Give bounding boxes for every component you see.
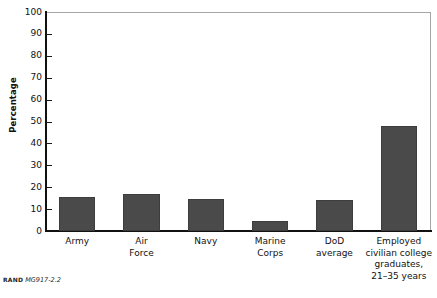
- bar: [381, 126, 417, 231]
- y-tick-mark: [46, 187, 52, 188]
- bar: [252, 221, 288, 231]
- y-tick-mark: [46, 34, 52, 35]
- bar: [188, 199, 224, 231]
- bar: [316, 200, 352, 231]
- bar: [59, 197, 95, 231]
- bar-series: [45, 12, 431, 231]
- y-tick-label: 0: [2, 227, 42, 236]
- x-tick-label-line: 21–35 years: [359, 271, 437, 283]
- figure-container: Percentage 0102030405060708090100 ArmyAi…: [0, 0, 437, 298]
- rand-wordmark: RAND: [3, 276, 23, 283]
- y-tick-label: 20: [2, 183, 42, 192]
- y-tick-mark: [46, 100, 52, 101]
- y-tick-label: 100: [2, 8, 42, 17]
- y-tick-label: 80: [2, 51, 42, 60]
- y-tick-label: 10: [2, 205, 42, 214]
- x-tick-label-line: Employed: [359, 236, 437, 248]
- y-tick-label: 50: [2, 117, 42, 126]
- y-axis-ticks: 0102030405060708090100: [0, 0, 42, 240]
- y-tick-label: 40: [2, 139, 42, 148]
- y-tick-label: 70: [2, 73, 42, 82]
- x-tick-label-line: Force: [101, 248, 181, 260]
- x-tick-label: Employedcivilian collegegraduates,21–35 …: [359, 236, 437, 282]
- y-tick-mark: [46, 165, 52, 166]
- y-tick-label: 90: [2, 29, 42, 38]
- figure-number: MG917-2.2: [25, 276, 61, 284]
- x-tick-label-line: civilian college: [359, 248, 437, 260]
- x-tick-label-line: graduates,: [359, 259, 437, 271]
- y-tick-mark: [46, 209, 52, 210]
- y-tick-mark: [46, 122, 52, 123]
- x-axis-ticks: ArmyAirForceNavyMarineCorpsDoDaverageEmp…: [45, 236, 435, 298]
- y-tick-mark: [46, 143, 52, 144]
- y-tick-label: 60: [2, 95, 42, 104]
- y-tick-label: 30: [2, 161, 42, 170]
- bar: [123, 194, 159, 231]
- y-tick-mark: [46, 56, 52, 57]
- y-tick-mark: [46, 78, 52, 79]
- figure-source-note: RAND MG917-2.2: [3, 276, 61, 284]
